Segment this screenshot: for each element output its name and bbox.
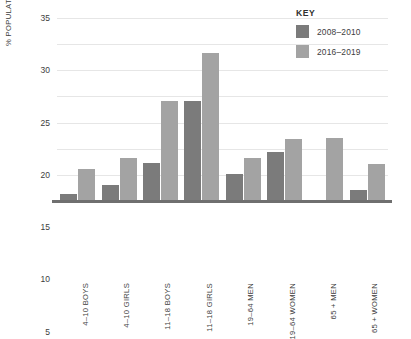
- y-axis-tick-label: 35: [41, 13, 50, 23]
- bar: [368, 164, 385, 201]
- y-axis-tick-label: 25: [41, 118, 50, 128]
- x-axis-tick-label: 19–64 WOMEN: [288, 283, 297, 339]
- x-axis-tick-label: 19–64 MEN: [246, 283, 255, 326]
- legend: KEY 2008–20102016–2019: [296, 8, 408, 65]
- bar: [285, 139, 302, 201]
- bar: [184, 101, 201, 201]
- y-axis-tick-label: 15: [41, 222, 50, 232]
- legend-title: KEY: [296, 8, 408, 18]
- legend-item-label: 2016–2019: [317, 47, 361, 57]
- x-axis-tick-label: 65 + WOMEN: [370, 283, 379, 333]
- legend-swatch-icon: [296, 45, 309, 58]
- bar: [267, 152, 284, 201]
- x-axis-tick-label: 11–18 GIRLS: [205, 283, 214, 332]
- y-axis-tick-label: 30: [41, 65, 50, 75]
- y-axis-title-label: % POPULATION BELOW THE LRNI: [4, 0, 13, 46]
- bar: [244, 158, 261, 201]
- x-axis-line: [52, 200, 392, 203]
- bar: [326, 138, 343, 201]
- y-axis-tick-label: 20: [41, 170, 50, 180]
- y-axis-tick-label: 10: [41, 274, 50, 284]
- x-axis-tick-label: 65 + MEN: [329, 283, 338, 319]
- legend-item[interactable]: 2008–2010: [296, 25, 408, 38]
- bar: [226, 174, 243, 201]
- x-axis-labels-group: 4–10 BOYS4–10 GIRLS11–18 BOYS11–18 GIRLS…: [57, 205, 388, 289]
- bar: [161, 101, 178, 201]
- x-axis-tick-label: 4–10 GIRLS: [122, 283, 131, 328]
- legend-swatch-icon: [296, 25, 309, 38]
- y-axis-title: % POPULATION BELOW THE LRNI: [4, 0, 13, 46]
- legend-item-label: 2008–2010: [317, 27, 361, 37]
- bar: [120, 158, 137, 201]
- bar: [143, 163, 160, 201]
- bar: [102, 185, 119, 201]
- bar: [78, 169, 95, 201]
- y-axis-tick-label: 5: [45, 327, 50, 337]
- bar: [202, 53, 219, 201]
- legend-item[interactable]: 2016–2019: [296, 45, 408, 58]
- x-axis-tick-label: 11–18 BOYS: [163, 283, 172, 330]
- legend-entries: 2008–20102016–2019: [296, 25, 408, 58]
- x-axis-tick-label: 4–10 BOYS: [81, 283, 90, 326]
